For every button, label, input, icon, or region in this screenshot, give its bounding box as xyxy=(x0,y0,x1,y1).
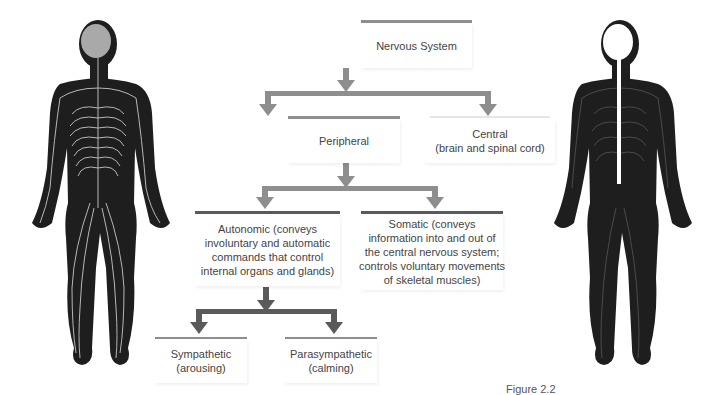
sympathetic-box: Sympathetic (arousing) xyxy=(155,339,247,383)
node-label: Parasympathetic xyxy=(290,347,372,361)
nervous-system-box: Nervous System xyxy=(361,23,472,68)
node-label: (brain and spinal cord) xyxy=(435,141,544,155)
node-label: Sympathetic xyxy=(171,347,232,361)
node-label: Autonomic (conveys xyxy=(218,222,317,236)
parasympathetic-box: Parasympathetic (calming) xyxy=(285,339,377,383)
peripheral-box: Peripheral xyxy=(288,119,400,163)
node-label: Nervous System xyxy=(376,39,457,53)
node-label: Peripheral xyxy=(319,134,369,148)
node-label: controls voluntary movements xyxy=(359,259,505,273)
central-box: Central (brain and spinal cord) xyxy=(425,119,555,163)
node-label: the central nervous system; xyxy=(365,245,500,259)
node-label: Somatic (conveys xyxy=(389,217,476,231)
somatic-box: Somatic (conveys information into and ou… xyxy=(361,214,503,290)
node-label: of skeletal muscles) xyxy=(384,273,481,287)
node-label: (arousing) xyxy=(176,361,226,375)
node-label: commands that control xyxy=(212,250,323,264)
node-label: internal organs and glands) xyxy=(201,264,334,278)
figure-caption: Figure 2.2 xyxy=(506,383,556,395)
node-label: information into and out of xyxy=(368,231,495,245)
node-label: (calming) xyxy=(308,361,353,375)
autonomic-box: Autonomic (conveys involuntary and autom… xyxy=(195,214,340,286)
central-bar xyxy=(430,116,550,118)
node-label: Central xyxy=(472,127,507,141)
node-label: involuntary and automatic xyxy=(205,236,330,250)
